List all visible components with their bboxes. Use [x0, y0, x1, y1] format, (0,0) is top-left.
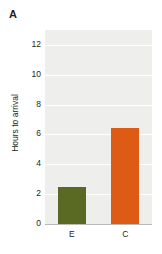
gridline: [45, 45, 152, 46]
y-axis-title: Hours to arrival: [10, 63, 20, 183]
gridline: [45, 105, 152, 106]
y-axis-tick-labels: 024681012: [26, 0, 41, 254]
y-tick-label: 10: [26, 70, 41, 79]
x-tick-label: C: [99, 229, 153, 239]
gridline: [45, 75, 152, 76]
y-tick-label: 4: [26, 159, 41, 168]
figure-panel-a: A Hours to arrival 024681012 EC: [0, 0, 162, 254]
y-tick-label: 0: [26, 219, 41, 228]
plot-area: [45, 30, 152, 224]
y-tick-label: 2: [26, 189, 41, 198]
y-tick-label: 8: [26, 100, 41, 109]
bar-e: [58, 187, 86, 224]
panel-label: A: [9, 8, 17, 20]
x-axis-line: [45, 224, 152, 225]
x-tick-label: E: [45, 229, 99, 239]
y-tick-label: 12: [26, 40, 41, 49]
x-axis-tick-labels: EC: [45, 229, 152, 243]
bar-c: [111, 128, 139, 224]
y-tick-label: 6: [26, 129, 41, 138]
